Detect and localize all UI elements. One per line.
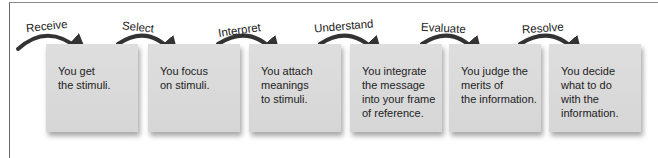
step-text: You integrate the message into your fram… <box>362 64 438 120</box>
step-text: You decide what to do with the informati… <box>561 64 637 120</box>
step-text: You get the stimuli. <box>58 64 134 92</box>
step-box-interpret: You attach meanings to stimuli. <box>249 44 341 132</box>
step-text: You focus on stimuli. <box>160 64 236 92</box>
step-box-receive: You get the stimuli. <box>46 44 138 132</box>
step-box-evaluate: You judge the merits of the information. <box>449 44 541 132</box>
step-text: You attach meanings to stimuli. <box>261 64 337 106</box>
step-text: You judge the merits of the information. <box>461 64 537 106</box>
step-box-resolve: You decide what to do with the informati… <box>549 44 641 132</box>
step-box-understand: You integrate the message into your fram… <box>350 44 442 132</box>
step-box-select: You focus on stimuli. <box>148 44 240 132</box>
step-label-evaluate: Evaluate <box>421 21 466 35</box>
